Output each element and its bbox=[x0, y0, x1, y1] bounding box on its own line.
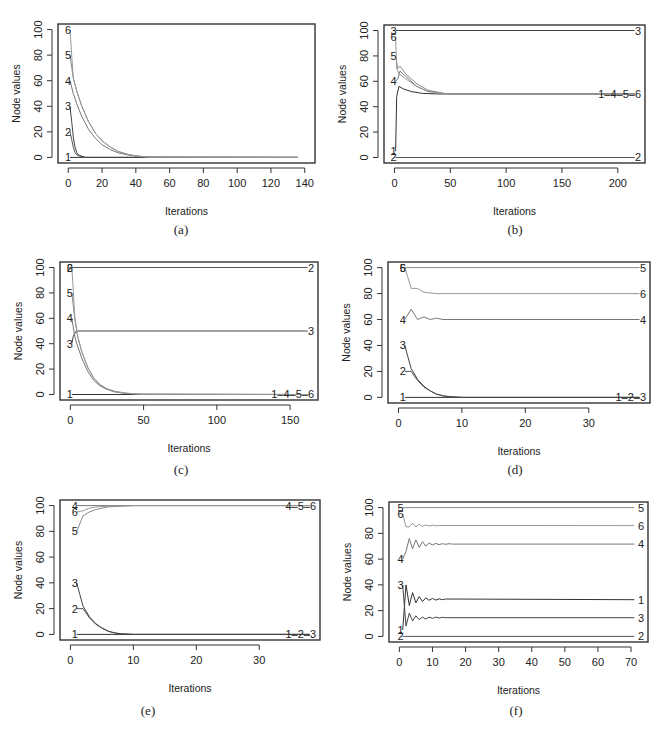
chart-panel-e: 0204060801000102030IterationsNode values… bbox=[0, 480, 331, 720]
y-tick-label: 40 bbox=[362, 339, 374, 351]
series-2: 2 bbox=[400, 365, 640, 397]
y-tick-label: 100 bbox=[363, 498, 375, 516]
y-axis: 020406080100 bbox=[363, 498, 383, 639]
y-tick-label: 20 bbox=[358, 126, 370, 138]
x-axis-label: Iterations bbox=[168, 682, 211, 694]
y-tick-label: 80 bbox=[358, 50, 370, 62]
series-3: 3 bbox=[400, 339, 640, 397]
y-tick-label: 60 bbox=[34, 312, 46, 324]
series-end-label: 4 bbox=[640, 314, 646, 326]
series-start-label: 2 bbox=[390, 151, 396, 163]
x-axis-label: Iterations bbox=[165, 205, 208, 217]
chart-panel-b: 020406080100050100150200IterationsNode v… bbox=[331, 0, 662, 240]
x-axis-label: Iterations bbox=[497, 445, 540, 457]
x-tick-label: 0 bbox=[391, 177, 397, 189]
series-start-label: 1 bbox=[72, 628, 78, 640]
x-tick-label: 100 bbox=[228, 177, 246, 189]
chart-a: 020406080100020406080100120140Iterations… bbox=[0, 0, 331, 240]
y-tick-label: 100 bbox=[34, 496, 46, 514]
series-start-label: 3 bbox=[67, 338, 73, 350]
x-tick-label: 0 bbox=[396, 656, 402, 668]
y-tick-label: 60 bbox=[34, 551, 46, 563]
series-6: 6 bbox=[390, 31, 634, 94]
series-start-label: 1 bbox=[400, 391, 406, 403]
y-axis-label: Node values bbox=[12, 302, 24, 360]
chart-f: 020406080100010203040506070IterationsNod… bbox=[331, 480, 663, 720]
x-tick-label: 10 bbox=[426, 656, 438, 668]
y-tick-label: 20 bbox=[362, 365, 374, 377]
y-tick-label: 100 bbox=[358, 21, 370, 39]
series-start-label: 5 bbox=[72, 525, 78, 537]
x-tick-label: 20 bbox=[459, 656, 471, 668]
series-6: 6 bbox=[400, 262, 640, 294]
caption-e: (e) bbox=[128, 703, 168, 719]
series-start-label: 2 bbox=[400, 365, 406, 377]
series-2: 2 bbox=[398, 630, 635, 642]
series-3: 3 bbox=[72, 577, 310, 635]
series-end-label: 3 bbox=[308, 325, 314, 337]
caption-b: (b) bbox=[495, 222, 535, 238]
series-start-label: 6 bbox=[65, 24, 71, 36]
series-2: 2 bbox=[65, 126, 298, 158]
series-end-label: 6 bbox=[640, 288, 646, 300]
series-1: 1 bbox=[398, 585, 635, 636]
series-start-label: 2 bbox=[72, 603, 78, 615]
y-tick-label: 0 bbox=[32, 154, 44, 160]
y-tick-label: 60 bbox=[363, 553, 375, 565]
x-tick-label: 0 bbox=[67, 654, 73, 666]
series-start-label: 3 bbox=[72, 577, 78, 589]
series-3: 3 bbox=[65, 100, 298, 157]
y-axis: 020406080100 bbox=[362, 258, 382, 400]
series-start-label: 2 bbox=[65, 126, 71, 138]
chart-d: 0204060801000102030IterationsNode values… bbox=[331, 240, 663, 480]
series-end-label: 1–2–3 bbox=[285, 628, 316, 640]
y-tick-label: 100 bbox=[34, 258, 46, 276]
y-tick-label: 60 bbox=[362, 313, 374, 325]
series-end-label: 2 bbox=[308, 262, 314, 274]
y-tick-label: 0 bbox=[362, 394, 374, 400]
series-end-label: 1–4–5–6 bbox=[598, 88, 641, 100]
series-5: 5 bbox=[67, 287, 308, 395]
series-end-label: 2 bbox=[635, 151, 641, 163]
y-axis-label: Node values bbox=[341, 543, 353, 601]
x-axis-label: Iterations bbox=[493, 205, 536, 217]
y-tick-label: 80 bbox=[32, 49, 44, 61]
series-end-label: 2 bbox=[638, 630, 644, 642]
series-end-label: 1–2–3 bbox=[615, 391, 646, 403]
x-tick-label: 200 bbox=[609, 177, 627, 189]
chart-b: 020406080100050100150200IterationsNode v… bbox=[331, 0, 663, 240]
series-4: 4 bbox=[398, 539, 635, 566]
x-tick-label: 40 bbox=[526, 656, 538, 668]
series-end-label: 5 bbox=[640, 262, 646, 274]
series-4: 4 bbox=[400, 309, 640, 325]
caption-d: (d) bbox=[495, 462, 535, 478]
series-start-label: 1 bbox=[67, 388, 73, 400]
plot-frame bbox=[389, 502, 648, 642]
y-axis: 020406080100 bbox=[358, 21, 378, 160]
x-tick-label: 50 bbox=[137, 414, 149, 426]
x-axis-label: Iterations bbox=[167, 442, 210, 454]
series-end-label: 1–4–5–6 bbox=[271, 388, 314, 400]
series-5: 5 bbox=[72, 506, 310, 538]
chart-e: 0204060801000102030IterationsNode values… bbox=[0, 480, 331, 720]
series-end-label: 6 bbox=[638, 520, 644, 532]
series-start-label: 6 bbox=[72, 506, 78, 518]
series-6: 6 bbox=[398, 508, 635, 527]
series-start-label: 6 bbox=[67, 262, 73, 274]
x-tick-label: 60 bbox=[163, 177, 175, 189]
y-tick-label: 0 bbox=[34, 631, 46, 637]
x-tick-label: 50 bbox=[559, 656, 571, 668]
series-6: 6 bbox=[67, 262, 308, 395]
x-tick-label: 10 bbox=[127, 654, 139, 666]
y-axis-label: Node values bbox=[12, 541, 24, 599]
x-tick-label: 140 bbox=[296, 177, 314, 189]
series-end-label: 4–5–6 bbox=[285, 500, 316, 512]
chart-c: 020406080100050100150IterationsNode valu… bbox=[0, 240, 331, 480]
x-tick-label: 0 bbox=[67, 414, 73, 426]
x-tick-label: 150 bbox=[281, 414, 299, 426]
x-tick-label: 20 bbox=[96, 177, 108, 189]
series-end-label: 1 bbox=[638, 594, 644, 606]
x-axis: 010203040506070 bbox=[396, 647, 637, 668]
y-axis-label: Node values bbox=[10, 64, 22, 122]
y-axis-label: Node values bbox=[340, 303, 352, 361]
